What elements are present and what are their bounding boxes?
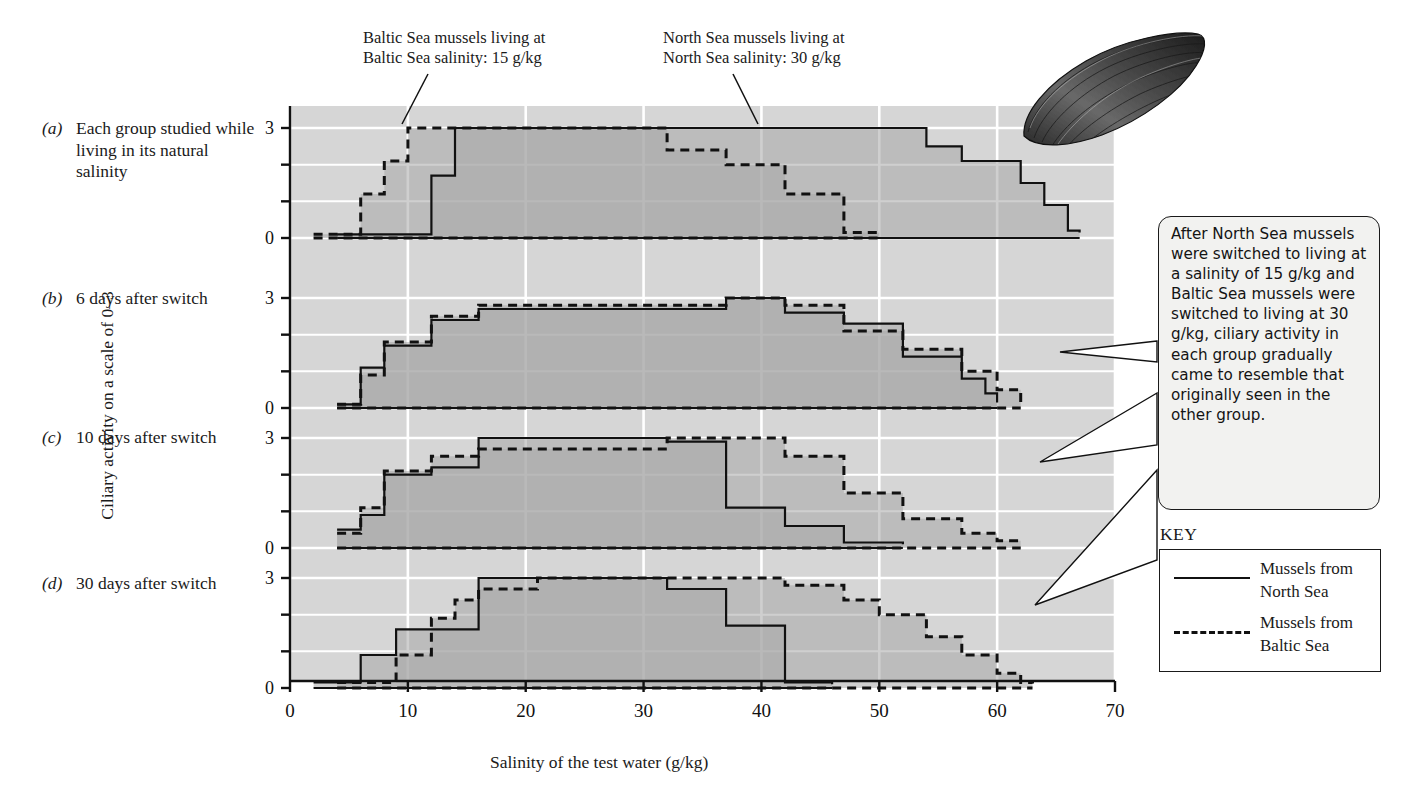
svg-text:0: 0 <box>265 228 274 248</box>
panel-tag-b: (b) <box>42 288 62 310</box>
panel-caption-b: 6 days after switch <box>76 288 257 310</box>
chart-plot-area: 03030303010203040506070 <box>290 106 1115 681</box>
dashed-line-swatch-icon <box>1174 631 1250 634</box>
key-box: Mussels from North Sea Mussels from Balt… <box>1159 549 1381 672</box>
svg-text:40: 40 <box>752 700 771 721</box>
svg-text:3: 3 <box>265 568 274 588</box>
panel-tag-a: (a) <box>42 118 62 140</box>
solid-line-swatch-icon <box>1174 577 1250 579</box>
panel-caption-a: Each group studied while living in its n… <box>76 118 257 183</box>
panel-label-a: (a) Each group studied while living in i… <box>42 118 257 183</box>
callout-bubble: After North Sea mussels were switched to… <box>1158 216 1380 510</box>
callout-text: After North Sea mussels were switched to… <box>1171 224 1369 425</box>
panel-tag-c: (c) <box>42 427 61 449</box>
svg-text:70: 70 <box>1106 700 1125 721</box>
svg-text:50: 50 <box>870 700 889 721</box>
svg-text:0: 0 <box>265 538 274 558</box>
key-label-north-sea: Mussels from North Sea <box>1260 557 1353 603</box>
panel-label-c: (c) 10 days after switch <box>42 427 257 449</box>
key-label-baltic-sea: Mussels from Baltic Sea <box>1260 611 1353 657</box>
annotation-north-sea: North Sea mussels living at North Sea sa… <box>663 28 844 68</box>
svg-text:0: 0 <box>265 398 274 418</box>
panel-label-b: (b) 6 days after switch <box>42 288 257 310</box>
mussel-photograph <box>1012 28 1208 152</box>
svg-text:0: 0 <box>265 678 274 698</box>
key-item-north-sea: Mussels from North Sea <box>1160 558 1380 606</box>
svg-text:10: 10 <box>398 700 417 721</box>
panel-caption-d: 30 days after switch <box>76 573 257 595</box>
svg-text:0: 0 <box>285 700 295 721</box>
panel-label-d: (d) 30 days after switch <box>42 573 257 595</box>
key-item-baltic-sea: Mussels from Baltic Sea <box>1160 612 1380 660</box>
svg-text:60: 60 <box>988 700 1007 721</box>
svg-text:30: 30 <box>634 700 653 721</box>
svg-text:3: 3 <box>265 118 274 138</box>
panel-caption-c: 10 days after switch <box>76 427 257 449</box>
key-title: KEY <box>1160 524 1197 545</box>
svg-text:20: 20 <box>516 700 535 721</box>
x-axis-title: Salinity of the test water (g/kg) <box>490 752 708 773</box>
annotation-baltic-sea: Baltic Sea mussels living at Baltic Sea … <box>363 28 545 68</box>
panel-tag-d: (d) <box>42 573 62 595</box>
svg-text:3: 3 <box>265 428 274 448</box>
chart-svg: 03030303010203040506070 <box>290 106 1115 681</box>
svg-text:3: 3 <box>265 288 274 308</box>
